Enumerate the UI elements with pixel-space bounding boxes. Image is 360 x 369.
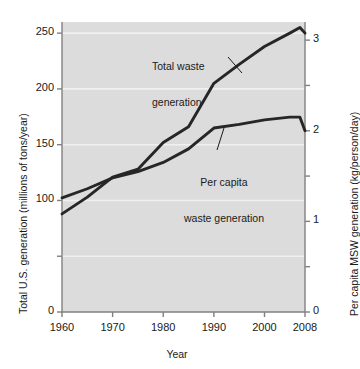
- left-tick-label: 100: [36, 192, 54, 204]
- per-capita-annotation-line1: Per capita: [184, 176, 264, 188]
- right-axis-title: Per capita MSW generation (kg/person/day…: [348, 112, 360, 316]
- right-tick-label: 0: [313, 304, 319, 316]
- total-waste-annotation-line2: generation: [152, 96, 205, 108]
- x-tick-label: 2008: [280, 321, 330, 333]
- left-tick-label: 150: [36, 137, 54, 149]
- left-tick-label: 250: [36, 25, 54, 37]
- left-tick-label: 0: [48, 304, 54, 316]
- left-tick-label: 200: [36, 81, 54, 93]
- x-axis-title: Year: [0, 348, 354, 360]
- x-tick-label: 1960: [37, 321, 87, 333]
- x-tick-label: 1970: [88, 321, 138, 333]
- per-capita-annotation: Per capita waste generation: [184, 152, 264, 249]
- bottom-axis-ticks: [62, 312, 305, 317]
- right-axis-ticks: [305, 40, 310, 312]
- right-tick-label: 1: [313, 213, 319, 225]
- left-axis-ticks: [57, 33, 62, 312]
- right-tick-label: 2: [313, 123, 319, 135]
- per-capita-annotation-line2: waste generation: [184, 212, 264, 224]
- right-tick-label: 3: [313, 32, 319, 44]
- x-tick-label: 1980: [138, 321, 188, 333]
- total-waste-annotation: Total waste generation: [152, 36, 205, 133]
- total-waste-annotation-line1: Total waste: [152, 60, 205, 72]
- left-axis-title: Total U.S. generation (millions of tons/…: [17, 113, 29, 314]
- x-tick-label: 1990: [189, 321, 239, 333]
